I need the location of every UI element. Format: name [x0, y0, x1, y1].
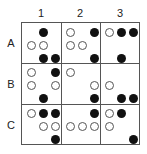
column-label-2: 2 [60, 7, 100, 19]
column-label-1: 1 [21, 7, 61, 19]
filled-circle-icon [39, 94, 48, 103]
cell-a2 [61, 23, 101, 64]
filled-circle-icon [129, 135, 138, 144]
row-label-a: A [6, 37, 16, 49]
open-circle-icon [90, 81, 99, 90]
open-circle-icon [105, 109, 114, 118]
open-circle-icon [27, 41, 36, 50]
dot-grid [21, 22, 140, 145]
filled-circle-icon [51, 54, 60, 63]
filled-circle-icon [51, 109, 60, 118]
filled-circle-icon [117, 54, 126, 63]
cell-a1 [22, 23, 62, 64]
open-circle-icon [39, 122, 48, 131]
filled-circle-icon [90, 109, 99, 118]
open-circle-icon [39, 41, 48, 50]
open-circle-icon [78, 41, 87, 50]
cell-c1 [22, 104, 62, 145]
cell-c2 [61, 104, 101, 145]
open-circle-icon [66, 68, 75, 77]
cell-c3 [100, 104, 140, 145]
filled-circle-icon [129, 94, 138, 103]
cell-b1 [22, 63, 62, 104]
open-circle-icon [105, 81, 114, 90]
column-label-3: 3 [100, 7, 140, 19]
cell-b3 [100, 63, 140, 104]
open-circle-icon [27, 68, 36, 77]
filled-circle-icon [39, 109, 48, 118]
open-circle-icon [66, 28, 75, 37]
filled-circle-icon [39, 28, 48, 37]
row-label-b: B [6, 78, 16, 90]
filled-circle-icon [51, 68, 60, 77]
filled-circle-icon [90, 28, 99, 37]
open-circle-icon [105, 28, 114, 37]
open-circle-icon [51, 122, 60, 131]
open-circle-icon [66, 122, 75, 131]
open-circle-icon [90, 122, 99, 131]
open-circle-icon [105, 122, 114, 131]
cell-b2 [61, 63, 101, 104]
row-label-c: C [6, 119, 16, 131]
cell-a3 [100, 23, 140, 64]
open-circle-icon [66, 41, 75, 50]
filled-circle-icon [51, 135, 60, 144]
filled-circle-icon [39, 54, 48, 63]
open-circle-icon [27, 81, 36, 90]
filled-circle-icon [129, 28, 138, 37]
open-circle-icon [78, 122, 87, 131]
open-circle-icon [51, 81, 60, 90]
filled-circle-icon [117, 28, 126, 37]
filled-circle-icon [90, 54, 99, 63]
filled-circle-icon [117, 109, 126, 118]
open-circle-icon [27, 109, 36, 118]
filled-circle-icon [90, 94, 99, 103]
filled-circle-icon [117, 94, 126, 103]
